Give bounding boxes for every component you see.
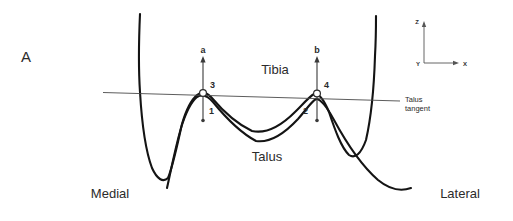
talus-label: Talus xyxy=(252,149,283,164)
marker-axis-a-arrowhead-icon xyxy=(200,56,205,63)
marker-number-4: 4 xyxy=(324,80,329,90)
coordinate-axes-group: Z X Y xyxy=(415,19,467,67)
talus-tangent-line xyxy=(103,93,400,102)
z-axis-arrowhead-icon xyxy=(422,21,426,27)
y-axis-label: Y xyxy=(416,61,420,67)
lateral-label: Lateral xyxy=(440,186,480,201)
talus-outline xyxy=(167,95,411,189)
talus-tangent-label-line2: tangent xyxy=(405,104,431,113)
marker-axis-b-end-dot xyxy=(315,119,319,123)
x-axis-label: X xyxy=(463,61,467,67)
tibia-label: Tibia xyxy=(261,62,289,77)
x-axis-arrowhead-icon xyxy=(453,61,459,65)
marker-number-1: 1 xyxy=(209,106,214,116)
z-axis-label: Z xyxy=(415,19,419,25)
marker-axis-b-group xyxy=(314,56,319,122)
marker-axis-a-end-dot xyxy=(201,119,205,123)
marker-number-3: 3 xyxy=(210,80,215,90)
figure-container: Z X Y A Tibia Talus Medial Lateral a b 3… xyxy=(0,0,513,221)
tibia-talus-diagram: Z X Y A Tibia Talus Medial Lateral a b 3… xyxy=(0,0,513,221)
marker-number-2: 2 xyxy=(303,106,308,116)
marker-axis-b-label: b xyxy=(314,45,320,55)
talus-tangent-label-line1: Talus xyxy=(405,95,423,104)
marker-axis-b-arrowhead-icon xyxy=(314,56,319,63)
intersection-marker-a xyxy=(200,90,207,97)
marker-axis-a-label: a xyxy=(200,45,206,55)
panel-label: A xyxy=(21,48,31,65)
medial-label: Medial xyxy=(91,186,129,201)
intersection-marker-b xyxy=(314,90,321,97)
